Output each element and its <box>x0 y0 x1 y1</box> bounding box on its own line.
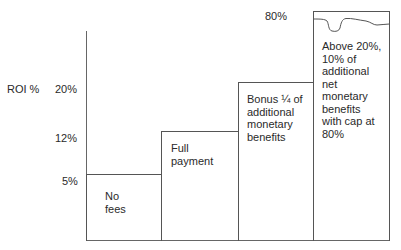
wavy-break-line <box>0 0 401 250</box>
